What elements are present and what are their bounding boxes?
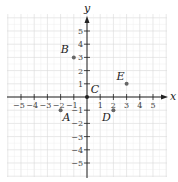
x-tick-label: −3 bbox=[40, 101, 52, 110]
y-tick-label: −2 bbox=[71, 119, 83, 128]
point-label-e: E bbox=[116, 70, 125, 83]
point-d bbox=[111, 108, 115, 112]
x-tick-label: −4 bbox=[26, 101, 38, 110]
x-axis-arrow-icon bbox=[161, 95, 168, 100]
y-tick-label: −3 bbox=[71, 133, 83, 142]
y-tick-label: 2 bbox=[78, 67, 83, 76]
y-tick-label: 4 bbox=[78, 40, 83, 49]
point-c bbox=[85, 95, 89, 99]
point-label-c: C bbox=[91, 83, 100, 96]
point-b bbox=[72, 55, 76, 59]
y-axis-label: y bbox=[83, 2, 91, 15]
coordinate-plane: x y −5−4−3−2−112345−5−4−3−2−112345 ABCDE bbox=[0, 0, 178, 182]
y-tick-label: −5 bbox=[71, 159, 83, 168]
point-label-a: A bbox=[62, 111, 71, 124]
x-tick-label: 5 bbox=[150, 101, 155, 110]
y-tick-label: 1 bbox=[78, 80, 83, 89]
x-tick-label: 1 bbox=[98, 101, 103, 110]
point-label-d: D bbox=[101, 111, 111, 124]
x-axis-label: x bbox=[170, 90, 177, 103]
y-tick-label: 5 bbox=[78, 27, 83, 36]
x-tick-label: 4 bbox=[137, 101, 142, 110]
y-tick-label: −1 bbox=[71, 106, 83, 115]
point-label-b: B bbox=[60, 43, 69, 56]
y-tick-label: −4 bbox=[71, 146, 83, 155]
y-axis-arrow-icon bbox=[85, 16, 90, 23]
x-tick-label: 3 bbox=[124, 101, 129, 110]
point-e bbox=[125, 82, 129, 86]
x-tick-label: −5 bbox=[13, 101, 25, 110]
y-tick-label: 3 bbox=[78, 53, 83, 62]
x-tick-label: −2 bbox=[53, 101, 65, 110]
